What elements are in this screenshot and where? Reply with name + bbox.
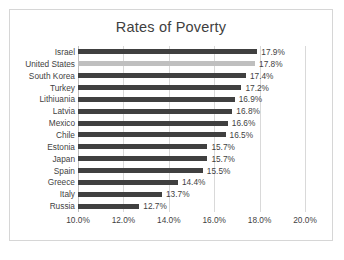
category-label: Turkey — [50, 84, 75, 92]
bar — [78, 180, 178, 185]
value-label: 13.7% — [166, 190, 190, 198]
bar — [78, 132, 226, 137]
category-label: Lithiuania — [39, 95, 75, 103]
x-tick-label: 18.0% — [248, 216, 272, 224]
value-label: 16.5% — [230, 131, 254, 139]
plot-wrapper: IsraelUnited StatesSouth KoreaTurkeyLith… — [10, 46, 332, 212]
category-label: Spain — [54, 167, 75, 175]
bar — [78, 204, 139, 209]
bar — [78, 168, 203, 173]
value-label: 17.4% — [250, 72, 274, 80]
value-label: 15.7% — [211, 143, 235, 151]
bar — [78, 109, 232, 114]
value-label: 17.9% — [261, 48, 285, 56]
value-label: 17.2% — [245, 84, 269, 92]
value-label: 14.4% — [182, 178, 206, 186]
gridline — [169, 46, 170, 212]
bar — [78, 73, 246, 78]
value-label: 12.7% — [143, 202, 167, 210]
x-tick-label: 14.0% — [157, 216, 181, 224]
value-label: 15.5% — [207, 167, 231, 175]
category-label: United States — [25, 60, 75, 68]
category-label: Japan — [52, 155, 75, 163]
bar — [78, 61, 255, 66]
x-tick-label: 12.0% — [112, 216, 136, 224]
gridline — [305, 46, 306, 212]
value-label: 16.6% — [232, 119, 256, 127]
bar — [78, 192, 162, 197]
value-axis: 10.0%12.0%14.0%16.0%18.0%20.0% — [78, 216, 305, 236]
value-label: 17.8% — [259, 60, 283, 68]
bar — [78, 97, 235, 102]
chart-title: Rates of Poverty — [10, 19, 332, 35]
category-label: Italy — [60, 190, 75, 198]
plot-area: 17.9%17.8%17.4%17.2%16.9%16.8%16.6%16.5%… — [78, 46, 305, 212]
value-label: 16.9% — [239, 95, 263, 103]
value-label: 16.8% — [236, 107, 260, 115]
category-label: Estonia — [47, 143, 75, 151]
category-label: Greece — [48, 178, 75, 186]
category-label: Mexico — [49, 119, 75, 127]
x-tick-label: 16.0% — [202, 216, 226, 224]
bar — [78, 144, 207, 149]
category-label: South Korea — [29, 72, 75, 80]
bar — [78, 121, 228, 126]
category-label: Latvia — [53, 107, 75, 115]
bar — [78, 49, 257, 54]
bar — [78, 156, 207, 161]
category-label: Israel — [55, 48, 75, 56]
gridline — [123, 46, 124, 212]
gridline — [78, 46, 79, 212]
bar — [78, 85, 241, 90]
category-label: Russia — [50, 202, 75, 210]
value-label: 15.7% — [211, 155, 235, 163]
gridline — [214, 46, 215, 212]
chart-container: Rates of Poverty IsraelUnited StatesSout… — [9, 9, 333, 241]
x-tick-label: 10.0% — [66, 216, 90, 224]
category-label: Chile — [56, 131, 75, 139]
x-tick-label: 20.0% — [293, 216, 317, 224]
category-axis: IsraelUnited StatesSouth KoreaTurkeyLith… — [10, 46, 78, 212]
